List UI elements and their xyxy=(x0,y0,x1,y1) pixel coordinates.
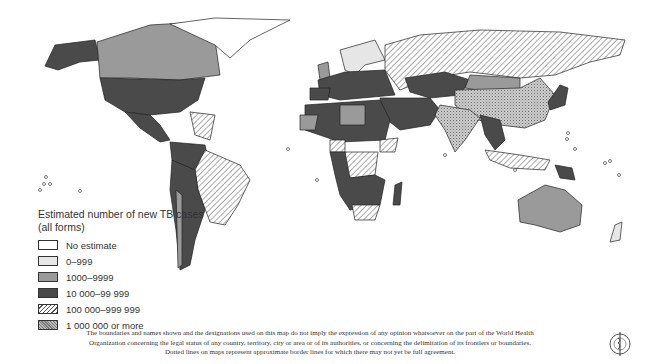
region-south-africa xyxy=(352,205,380,220)
legend-label: 0–999 xyxy=(66,256,92,267)
legend-item-1000-9999: 1000–9999 xyxy=(38,270,208,284)
region-new-zealand xyxy=(610,222,622,242)
region-scandinavia xyxy=(340,40,385,75)
region-madagascar xyxy=(393,182,402,205)
disclaimer-line-3: Dotted lines on maps represent approxima… xyxy=(40,348,580,358)
who-emblem-icon xyxy=(608,330,632,358)
legend-label: 10 000–99 999 xyxy=(66,288,129,299)
disclaimer-line-2: Organization concerning the legal status… xyxy=(40,339,580,349)
region-mexico xyxy=(125,112,170,142)
legend-label: No estimate xyxy=(66,240,117,251)
region-caribbean xyxy=(190,112,215,140)
legend-label: 1000–9999 xyxy=(66,272,114,283)
legend-item-10000-99999: 10 000–99 999 xyxy=(38,286,208,300)
legend-swatch xyxy=(38,288,58,298)
disclaimer-line-1: The boundaries and names shown and the d… xyxy=(40,329,580,339)
region-alaska xyxy=(45,40,100,70)
region-nigeria xyxy=(330,140,345,152)
region-australia xyxy=(518,185,582,232)
region-libya xyxy=(340,105,365,125)
region-indonesia xyxy=(485,150,550,170)
legend-swatch xyxy=(38,256,58,266)
legend-title: Estimated number of new TB cases (all fo… xyxy=(38,208,208,234)
legend-label: 100 000–999 999 xyxy=(66,304,140,315)
legend-item-no-estimate: No estimate xyxy=(38,238,208,252)
region-iberia xyxy=(310,88,330,100)
region-png xyxy=(555,165,575,180)
region-west-sahara xyxy=(300,115,318,130)
legend-item-100000-999999: 100 000–999 999 xyxy=(38,302,208,316)
legend-swatch xyxy=(38,304,58,314)
legend-item-0-999: 0–999 xyxy=(38,254,208,268)
legend-swatch xyxy=(38,240,58,250)
region-ethiopia xyxy=(380,138,398,152)
legend-swatch xyxy=(38,272,58,282)
region-japan xyxy=(548,85,568,110)
region-usa xyxy=(100,78,205,115)
disclaimer-footer: The boundaries and names shown and the d… xyxy=(40,329,580,358)
map-legend: Estimated number of new TB cases (all fo… xyxy=(38,208,208,334)
